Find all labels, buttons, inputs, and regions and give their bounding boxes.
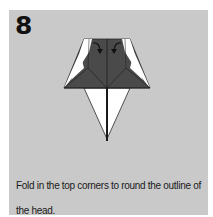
instruction-text: Fold in the top corners to round the out… — [16, 173, 204, 217]
instruction-panel: 8 — [9, 10, 208, 215]
origami-diagram — [9, 10, 208, 170]
lower-kite-shape — [84, 88, 130, 141]
head-trapezoid-shape — [64, 39, 150, 88]
